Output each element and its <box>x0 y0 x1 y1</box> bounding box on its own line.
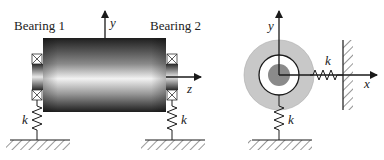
z-axis-label: z <box>186 81 192 96</box>
right-panel-cross-section: y x k k <box>244 11 377 150</box>
ground-right-icon <box>141 140 205 150</box>
shaft-left-stub <box>32 64 44 90</box>
bearing-2-label: Bearing 2 <box>150 18 201 33</box>
spring-left-bearing-1-icon <box>32 100 42 140</box>
y-axis-label-right: y <box>266 18 274 33</box>
left-panel-rotor-side-view: y z Bearing 1 Bearing 2 k k <box>6 11 205 150</box>
ground-cross-section-icon <box>248 140 312 150</box>
spring-label-bearing-2: k <box>181 112 187 127</box>
spring-right-bearing-2-icon <box>167 100 177 140</box>
spring-label-vertical: k <box>288 112 294 127</box>
y-axis-label-left: y <box>108 15 116 30</box>
x-axis-label: x <box>363 76 370 91</box>
spring-label-horizontal: k <box>325 53 331 68</box>
rotor-body-shade <box>43 38 166 112</box>
spring-label-bearing-1: k <box>22 112 28 127</box>
wall-icon <box>343 40 353 110</box>
bearing-1-label: Bearing 1 <box>14 18 65 33</box>
ground-left-icon <box>6 140 70 150</box>
rotor-bearing-diagram: y z Bearing 1 Bearing 2 k k y <box>0 0 384 160</box>
